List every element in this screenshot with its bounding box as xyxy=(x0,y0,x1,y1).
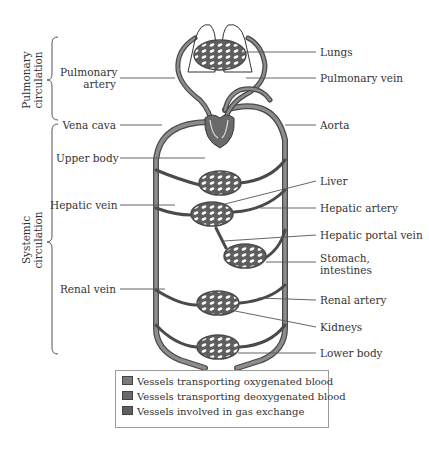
legend-item-gas-exchange: Vessels involved in gas exchange xyxy=(122,405,304,418)
oxygenated-swatch-icon xyxy=(122,376,133,385)
pulmonary-artery-line2: artery xyxy=(60,78,116,90)
hepatic-portal-vein-label: Hepatic portal vein xyxy=(320,229,423,241)
systemic-label-line1: Systemic xyxy=(20,200,32,280)
legend-label: Vessels involved in gas exchange xyxy=(137,406,304,417)
systemic-label-line2: circulation xyxy=(32,200,44,280)
lungs-label: Lungs xyxy=(320,46,353,58)
pulmonary-vein-label: Pulmonary vein xyxy=(320,72,403,84)
systemic-circulation-label: Systemic circulation xyxy=(20,200,44,280)
legend: Vessels transporting oxygenated blood Ve… xyxy=(115,370,329,428)
kidneys-label: Kidneys xyxy=(320,321,362,333)
legend-item-deoxygenated: Vessels transporting deoxygenated blood xyxy=(122,390,346,403)
stomach-intestines-label: Stomach, intestines xyxy=(320,252,372,276)
stomach-line1: Stomach, xyxy=(320,252,372,264)
lungs-capillary-bed xyxy=(194,40,246,70)
stomach-capillary-bed xyxy=(224,244,266,268)
vena-cava-label: Vena cava xyxy=(56,119,116,131)
legend-label: Vessels transporting deoxygenated blood xyxy=(137,391,346,402)
legend-item-oxygenated: Vessels transporting oxygenated blood xyxy=(122,375,333,388)
renal-artery-label: Renal artery xyxy=(320,294,387,306)
deoxygenated-swatch-icon xyxy=(122,391,133,400)
upper-body-capillary-bed xyxy=(199,171,241,195)
pulmonary-bracket xyxy=(47,37,58,120)
aorta-label: Aorta xyxy=(320,119,349,131)
heart xyxy=(205,115,234,148)
pulmonary-artery-label: Pulmonary artery xyxy=(60,66,116,90)
pulmonary-label-line2: circulation xyxy=(32,40,44,120)
gas-exchange-swatch-icon xyxy=(122,406,133,415)
legend-label: Vessels transporting oxygenated blood xyxy=(137,376,333,387)
kidneys-capillary-bed xyxy=(197,291,239,315)
pulmonary-circulation-label: Pulmonary circulation xyxy=(20,40,44,120)
stomach-line2: intestines xyxy=(320,264,372,276)
upper-body-label: Upper body xyxy=(56,152,116,164)
pulmonary-label-line1: Pulmonary xyxy=(20,40,32,120)
liver-capillary-bed xyxy=(191,202,233,226)
hepatic-vein-label: Hepatic vein xyxy=(50,199,116,211)
pulmonary-artery-line1: Pulmonary xyxy=(60,66,116,78)
lower-body-label: Lower body xyxy=(320,347,383,359)
liver-label: Liver xyxy=(320,175,348,187)
renal-vein-label: Renal vein xyxy=(56,283,116,295)
hepatic-artery-label: Hepatic artery xyxy=(320,202,398,214)
lower-body-capillary-bed xyxy=(197,335,239,359)
